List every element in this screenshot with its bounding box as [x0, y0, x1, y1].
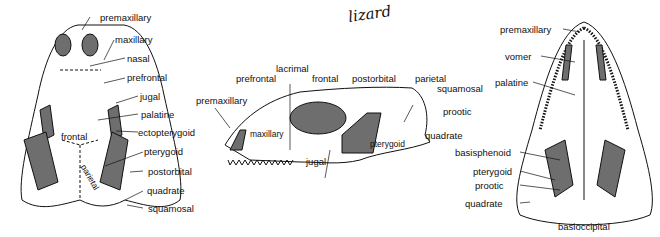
label-pterygoid-lateral: pterygoid — [370, 140, 405, 149]
label-basioccipital-ventral: basioccipital — [558, 222, 610, 232]
label-prootic-lateral: prootic — [443, 107, 472, 117]
label-ectopterygoid-dorsal: ectopterygoid — [138, 128, 195, 138]
ventral-skull-drawing — [517, 22, 653, 225]
label-quadrate-lateral: quadrate — [425, 131, 463, 141]
label-frontal-lateral: frontal — [312, 74, 338, 84]
label-prefrontal-dorsal: prefrontal — [127, 73, 167, 83]
label-postorbital-lateral: postorbital — [352, 74, 396, 84]
label-lacrimal-lateral: lacrimal — [276, 64, 309, 74]
label-prootic-ventral: prootic — [475, 181, 504, 191]
label-pterygoid-dorsal: pterygoid — [144, 147, 183, 157]
label-premaxillary-lateral: premaxillary — [196, 96, 247, 106]
skull-diagram — [0, 0, 660, 237]
label-maxillary-lateral: maxillary — [250, 130, 284, 139]
label-premaxillary-ventral: premaxillary — [500, 25, 551, 35]
label-jugal-dorsal: jugal — [140, 92, 160, 102]
label-palatine-ventral: palatine — [495, 78, 528, 88]
label-prefrontal-lateral: prefrontal — [236, 74, 276, 84]
label-palatine-dorsal: palatine — [141, 110, 174, 120]
label-nasal-dorsal: nasal — [127, 54, 150, 64]
lateral-skull-drawing — [225, 87, 430, 165]
label-quadrate-ventral: quadrate — [465, 199, 503, 209]
label-basisphenoid-ventral: basisphenoid — [455, 148, 511, 158]
label-squamosal-dorsal: squamosal — [148, 204, 194, 214]
label-jugal-lateral: jugal — [306, 157, 326, 167]
label-maxillary-dorsal: maxillary — [115, 35, 152, 45]
label-vomer-ventral: vomer — [505, 52, 531, 62]
label-quadrate-dorsal: quadrate — [147, 186, 185, 196]
label-squamosal-lateral: squamosal — [437, 84, 483, 94]
label-premaxillary-dorsal: premaxillary — [100, 13, 151, 23]
label-postorbital-dorsal: postorbital — [148, 167, 192, 177]
label-frontal-dorsal: frontal — [61, 132, 87, 142]
label-pterygoid-ventral: pterygoid — [473, 167, 512, 177]
